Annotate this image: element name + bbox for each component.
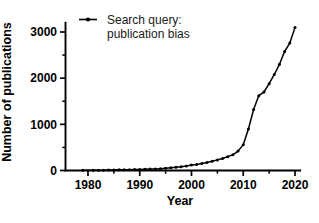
series-point — [97, 169, 100, 172]
series-point — [118, 168, 121, 171]
series-point — [154, 167, 157, 170]
series-point — [195, 163, 198, 166]
chart-figure: 0100020003000 19801990200020102020 Searc… — [0, 0, 319, 223]
legend: Search query: publication bias — [79, 13, 190, 42]
series-point — [257, 94, 260, 97]
x-tick-label: 2020 — [282, 178, 309, 192]
y-axis-title: Number of publications — [0, 22, 14, 162]
series-point — [231, 153, 234, 156]
series-point — [247, 127, 250, 130]
series-point — [102, 169, 105, 172]
x-tick-label: 1980 — [75, 178, 102, 192]
legend-marker-dot — [86, 17, 90, 21]
series-point — [107, 169, 110, 172]
y-tick-label: 1000 — [30, 118, 57, 132]
series-point — [294, 26, 297, 29]
series-point — [174, 166, 177, 169]
series-point — [81, 169, 84, 172]
legend-label-line1: Search query: — [107, 13, 182, 27]
x-tick-label: 1990 — [126, 178, 153, 192]
series-point — [262, 91, 265, 94]
series-point — [149, 168, 152, 171]
series-point — [159, 167, 162, 170]
series-point — [200, 162, 203, 165]
series-point — [190, 163, 193, 166]
data-series-publication-bias — [81, 26, 296, 172]
y-tick-label: 0 — [50, 164, 57, 178]
series-point — [242, 143, 245, 146]
series-point — [206, 161, 209, 164]
series-point — [180, 165, 183, 168]
x-tick-label: 2000 — [178, 178, 205, 192]
series-line-publication-bias — [83, 27, 295, 170]
y-tick-label: 2000 — [30, 71, 57, 85]
x-axis-title: Year — [167, 194, 194, 208]
series-point — [164, 167, 167, 170]
y-tick-label: 3000 — [30, 25, 57, 39]
x-axis-tick-labels: 19801990200020102020 — [75, 178, 309, 192]
publication-trend-chart: 0100020003000 19801990200020102020 Searc… — [0, 0, 319, 223]
series-point — [288, 42, 291, 45]
series-point — [252, 108, 255, 111]
series-point — [92, 169, 95, 172]
series-point — [133, 168, 136, 171]
series-point — [283, 50, 286, 53]
series-point — [268, 82, 271, 85]
series-point — [226, 155, 229, 158]
legend-label-line2: publication bias — [107, 27, 190, 41]
series-point — [123, 168, 126, 171]
series-point — [143, 168, 146, 171]
series-point — [128, 168, 131, 171]
series-point — [112, 168, 115, 171]
y-axis-tick-labels: 0100020003000 — [30, 25, 57, 178]
series-point — [278, 63, 281, 66]
series-point — [221, 157, 224, 160]
series-point — [138, 168, 141, 171]
series-point — [273, 73, 276, 76]
series-point — [185, 165, 188, 168]
series-point — [211, 160, 214, 163]
series-point — [216, 158, 219, 161]
series-point — [169, 166, 172, 169]
x-tick-label: 2010 — [230, 178, 257, 192]
series-point — [237, 150, 240, 153]
